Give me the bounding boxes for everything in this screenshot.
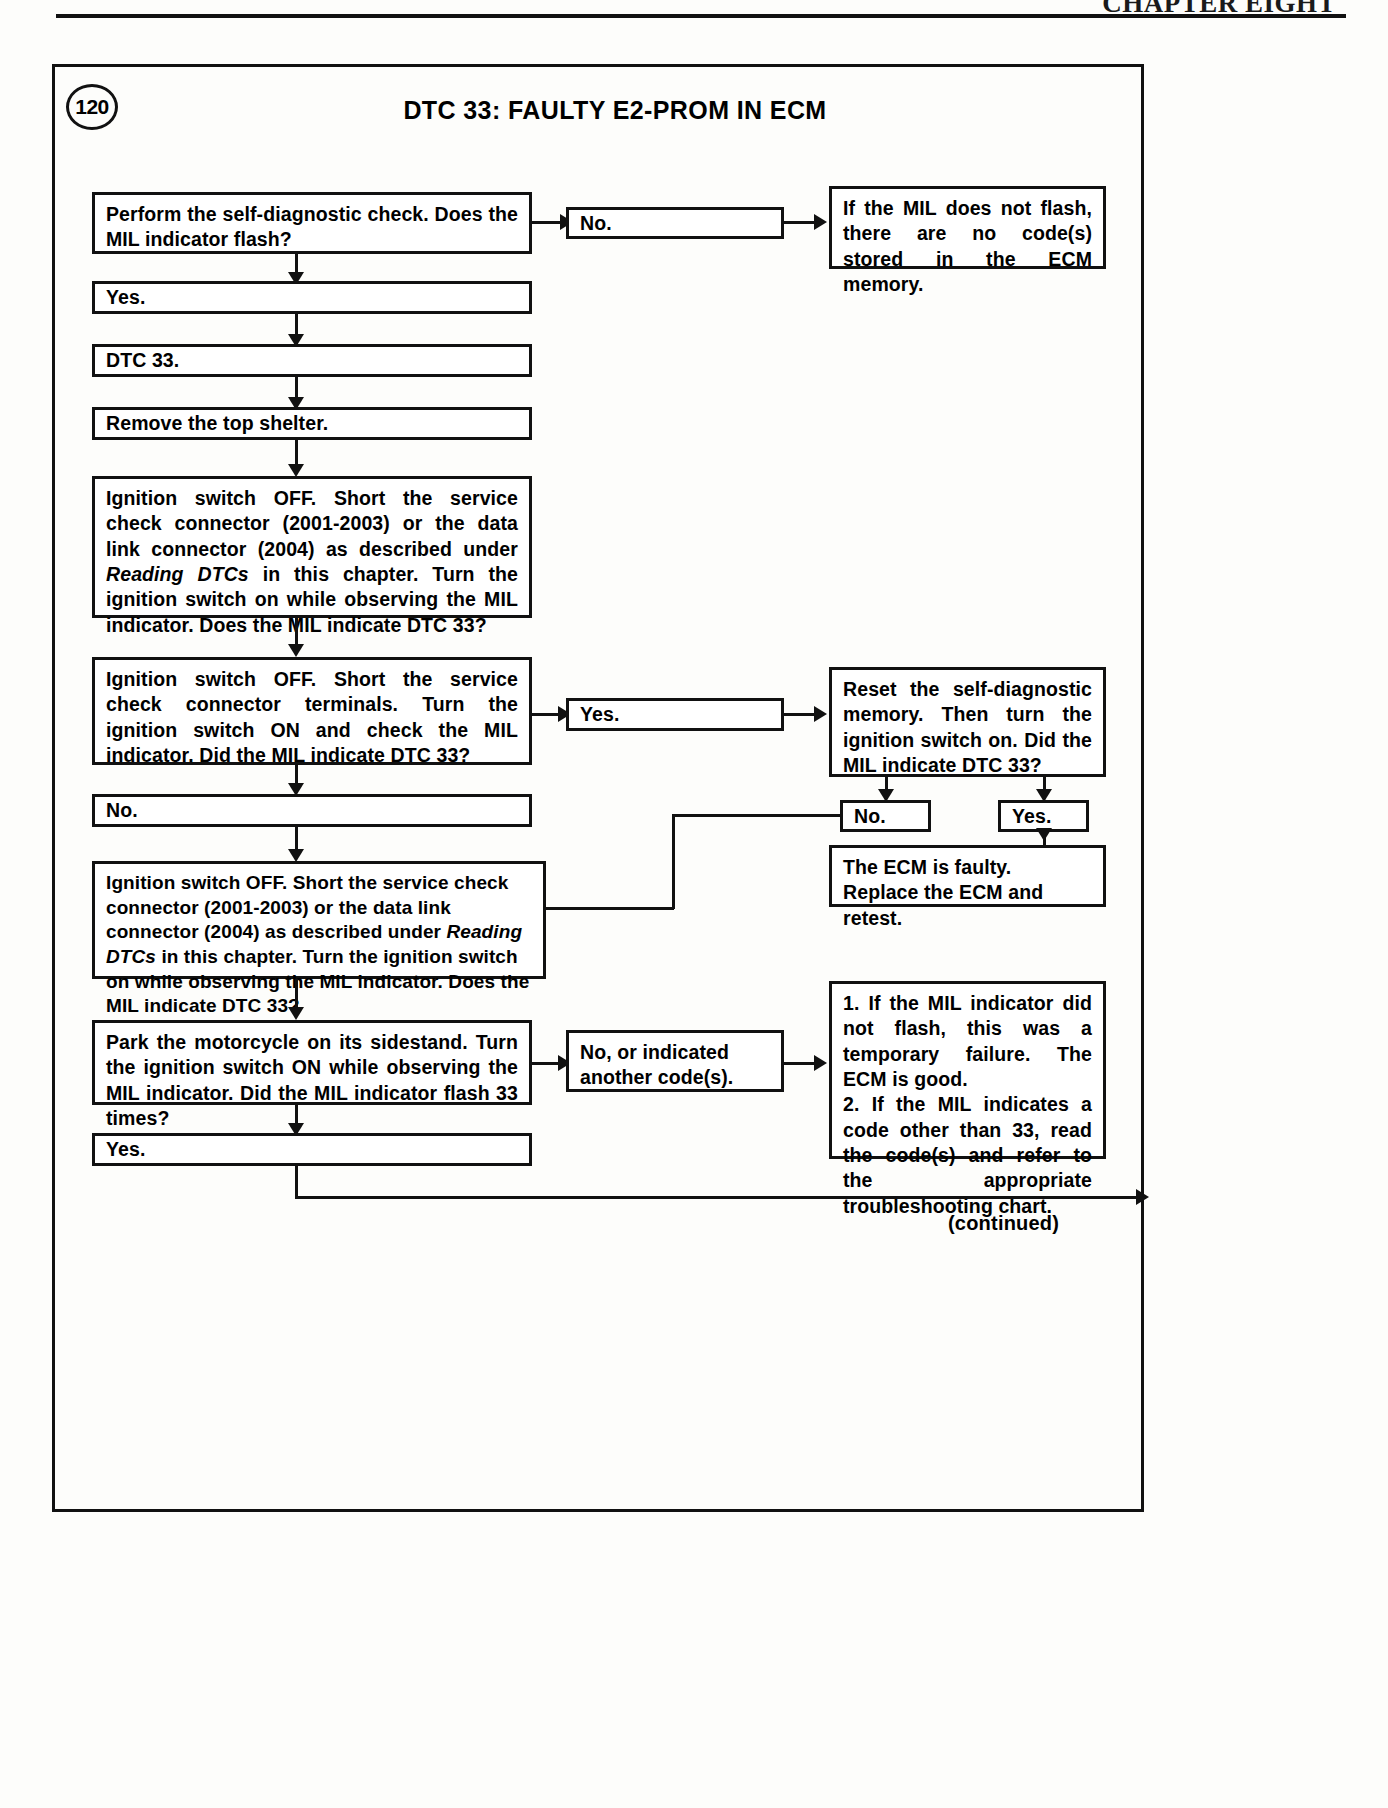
arrow-no-to-result bbox=[814, 214, 827, 230]
arrow-yes-to-ecm-faulty bbox=[1036, 828, 1052, 841]
chart-title: DTC 33: FAULTY E2-PROM IN ECM bbox=[150, 96, 1080, 125]
connector-terminals-to-yes bbox=[532, 713, 560, 716]
figure-number-badge: 120 bbox=[66, 84, 118, 130]
arrow-no-other-to-list bbox=[814, 1055, 827, 1071]
box-ignition-switch-terminals: Ignition switch OFF. Short the service c… bbox=[92, 657, 532, 765]
connector-continued-horizontal bbox=[295, 1196, 1138, 1199]
box-remove-top-shelter: Remove the top shelter. bbox=[92, 407, 532, 440]
connector-reset-no-vert bbox=[672, 814, 675, 909]
box-no-codes-stored: If the MIL does not flash, there are no … bbox=[829, 186, 1106, 269]
flowchart-page: CHAPTER EIGHT 120 DTC 33: FAULTY E2-PROM… bbox=[0, 0, 1388, 1808]
box-yes-terminals: Yes. bbox=[566, 698, 784, 731]
box-dtc-33: DTC 33. bbox=[92, 344, 532, 377]
box-ignition-switch-off-service-check-2: Ignition switch OFF. Short the service c… bbox=[92, 861, 546, 979]
box-park-motorcycle-sidestand: Park the motorcycle on its sidestand. Tu… bbox=[92, 1020, 532, 1105]
connector-no-to-result bbox=[784, 221, 816, 224]
connector-reset-no-left bbox=[672, 814, 842, 817]
box-yes-row2: Yes. bbox=[92, 281, 532, 314]
connector-yes-to-reset bbox=[784, 713, 816, 716]
arrow-ignition2-down bbox=[288, 1007, 304, 1020]
outcome-item-1: 1. If the MIL indicator did not flash, t… bbox=[843, 991, 1092, 1092]
box-reset-no: No. bbox=[840, 800, 931, 832]
box-yes-final: Yes. bbox=[92, 1133, 532, 1166]
continued-label: (continued) bbox=[948, 1212, 1059, 1235]
arrow-ignition1-down bbox=[288, 644, 304, 657]
box-reset-self-diagnostic-memory: Reset the self-diagnostic memory. Then t… bbox=[829, 667, 1106, 777]
box-row1-no: No. bbox=[566, 207, 784, 239]
box-perform-self-diagnostic-check: Perform the self-diagnostic check. Does … bbox=[92, 192, 532, 254]
arrow-continued bbox=[1136, 1189, 1149, 1205]
connector-final-yes-down bbox=[295, 1166, 298, 1199]
connector-park-to-no-other bbox=[532, 1062, 560, 1065]
outcome-item-2: 2. If the MIL indicates a code other tha… bbox=[843, 1092, 1092, 1219]
connector-no-other-to-list bbox=[784, 1062, 816, 1065]
connector-b1-to-no bbox=[532, 221, 562, 224]
box-ecm-faulty-replace: The ECM is faulty. Replace the ECM and r… bbox=[829, 845, 1106, 907]
box-temporary-failure-and-other-codes: 1. If the MIL indicator did not flash, t… bbox=[829, 981, 1106, 1159]
box-no-left-column: No. bbox=[92, 794, 532, 827]
arrow-yes-to-reset bbox=[814, 706, 827, 722]
ignition-1-text-part-a: Ignition switch OFF. Short the service c… bbox=[106, 487, 518, 560]
connector-reset-no-into-box bbox=[546, 907, 674, 910]
ignition-1-reading-dtcs-italic: Reading DTCs bbox=[106, 563, 249, 585]
header-rule bbox=[56, 14, 1346, 18]
box-no-or-indicated-another-code: No, or indicated another code(s). bbox=[566, 1030, 784, 1092]
box-ignition-switch-off-service-check-1: Ignition switch OFF. Short the service c… bbox=[92, 476, 532, 618]
